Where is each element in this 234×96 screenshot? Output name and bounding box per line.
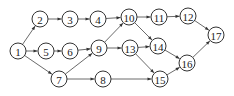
node-14: 14	[150, 38, 166, 54]
edge-14-to-16	[165, 50, 180, 59]
node-5: 5	[38, 43, 54, 59]
node-label: 17	[211, 30, 223, 42]
edge-15-to-16	[167, 67, 180, 75]
edge-12-to-17	[195, 20, 209, 30]
node-label: 4	[95, 14, 101, 26]
node-3: 3	[62, 11, 78, 27]
edge-6-to-9	[78, 49, 91, 50]
edge-4-to-10	[106, 18, 121, 19]
node-label: 5	[43, 46, 49, 58]
edge-9-to-10	[105, 23, 124, 42]
edge-13-to-14	[138, 47, 150, 48]
node-label: 12	[183, 11, 194, 23]
node-label: 8	[100, 74, 106, 86]
node-17: 17	[208, 27, 224, 43]
node-label: 2	[37, 14, 43, 26]
node-label: 1	[15, 46, 21, 58]
node-1: 1	[10, 43, 26, 59]
node-label: 14	[153, 41, 165, 53]
node-7: 7	[51, 71, 67, 87]
node-11: 11	[151, 9, 167, 25]
node-15: 15	[152, 71, 168, 87]
node-label: 6	[67, 46, 73, 58]
node-label: 16	[182, 58, 194, 70]
edge-1-to-2	[23, 26, 36, 44]
edge-16-to-17	[193, 41, 210, 58]
node-16: 16	[179, 55, 195, 71]
node-label: 10	[124, 12, 136, 24]
network-diagram: 1234567891011121314151617	[0, 0, 234, 96]
edge-13-to-15	[136, 54, 155, 73]
node-label: 11	[154, 12, 165, 24]
node-2: 2	[32, 11, 48, 27]
node-8: 8	[95, 71, 111, 87]
node-layer: 1234567891011121314151617	[10, 8, 224, 87]
node-label: 15	[155, 74, 167, 86]
node-4: 4	[90, 11, 106, 27]
node-label: 7	[56, 74, 62, 86]
node-12: 12	[180, 8, 196, 24]
node-label: 9	[96, 43, 102, 55]
node-label: 3	[67, 14, 73, 26]
node-label: 13	[125, 43, 137, 55]
node-6: 6	[62, 43, 78, 59]
node-10: 10	[121, 9, 137, 25]
node-13: 13	[122, 40, 138, 56]
edge-10-to-14	[135, 23, 152, 40]
node-9: 9	[91, 40, 107, 56]
